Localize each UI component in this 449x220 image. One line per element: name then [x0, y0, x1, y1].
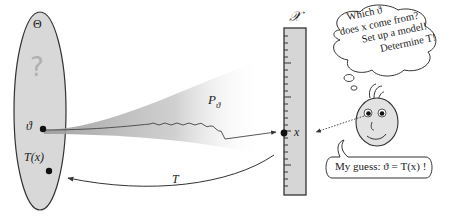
- observation-point: [281, 130, 288, 137]
- observation-label: x: [294, 125, 299, 140]
- thought-dot-small: [351, 86, 357, 90]
- thought-dot-large: [344, 75, 354, 82]
- estimator-label: T: [172, 172, 179, 187]
- statistical-inference-diagram: Θ ? ϑ T(x) Pϑ 𝒳 x T Which ϑ does x come …: [0, 0, 449, 220]
- unknown-parameter-question-mark: ?: [30, 52, 44, 82]
- speech-text: My guess: ϑ = T(x) !: [335, 160, 426, 172]
- estimator-arrow: [68, 155, 274, 186]
- thinker-face: [356, 84, 398, 146]
- estimate-point: [46, 168, 52, 174]
- model-label-main: P: [208, 92, 216, 107]
- model-label-subscript: ϑ: [216, 100, 220, 110]
- estimate-label: T(x): [24, 150, 44, 165]
- parameter-space-ellipse: [14, 12, 66, 210]
- theta-label: ϑ: [26, 119, 32, 134]
- theta-point: [40, 126, 46, 132]
- parameter-space-label: Θ: [33, 17, 42, 32]
- sample-space-label: 𝒳: [289, 9, 301, 25]
- model-distribution-fan: [44, 62, 262, 155]
- model-label: Pϑ: [208, 92, 220, 110]
